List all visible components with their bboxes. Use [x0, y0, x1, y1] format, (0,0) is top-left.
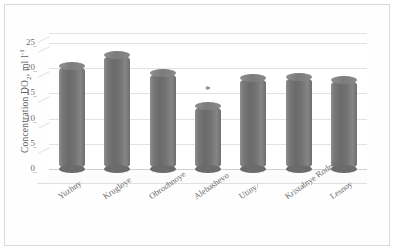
x-tick-mark: [257, 183, 258, 188]
x-tick-label: Lesnoy: [328, 179, 354, 202]
x-tick-label: Krugloye: [101, 175, 133, 202]
x-tick-label: Obrochnoye: [147, 169, 187, 201]
x-tick-label: Utiny: [237, 182, 259, 201]
x-tick-label: Yuzhny: [56, 178, 83, 201]
x-axis-labels: YuzhnyKrugloyeObrochnoyeAlebashevoUtinyK…: [5, 5, 396, 252]
chart-frame: * 0510152025 Concentration DO2, ml l-1 Y…: [4, 4, 390, 246]
x-tick-label: Alebashevo: [192, 170, 231, 201]
